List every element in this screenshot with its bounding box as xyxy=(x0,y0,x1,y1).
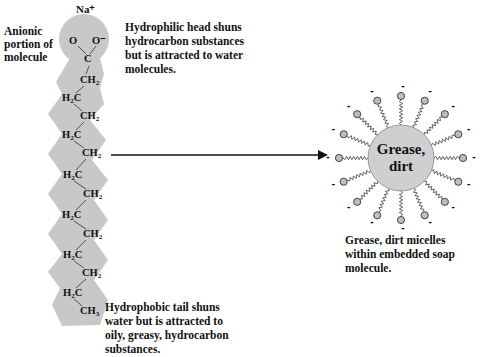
sodium-cation: Na⁺ xyxy=(76,4,95,15)
negative-charge: - xyxy=(452,100,455,111)
surfactant-head xyxy=(340,178,347,185)
surfactant-tail xyxy=(424,181,442,199)
chain-group-label: H2C xyxy=(62,92,81,107)
surfactant-tail xyxy=(347,136,370,147)
surfactant-tail xyxy=(424,117,442,135)
oxygen-left: O xyxy=(69,35,77,46)
surfactant-head xyxy=(335,154,342,161)
surfactant-tail xyxy=(347,171,370,182)
surfactant-tail xyxy=(432,135,455,146)
surfactant-head xyxy=(441,111,448,118)
negative-charge: - xyxy=(370,85,373,96)
surfactant-tail xyxy=(434,156,459,159)
negative-charge: - xyxy=(428,85,431,96)
surfactant-tail xyxy=(413,104,424,127)
chain-group-label: H2C xyxy=(62,129,81,144)
negative-charge: - xyxy=(401,222,404,233)
hydrophobic-tail-description: Hydrophobic tail shuns water but is attr… xyxy=(105,300,229,356)
negative-charge: - xyxy=(452,201,455,212)
chain-group-label: H2C xyxy=(63,169,82,184)
chain-group-label: CH2 xyxy=(80,110,99,125)
negative-charge: - xyxy=(428,216,431,227)
surfactant-tail xyxy=(399,100,402,125)
negative-charge: - xyxy=(347,201,350,212)
oxygen-right-charged: O⁻ xyxy=(92,35,106,46)
surfactant-head xyxy=(374,212,381,219)
surfactant-tail xyxy=(432,170,455,181)
chain-group-label: CH2 xyxy=(82,267,101,282)
negative-charge: - xyxy=(467,123,470,134)
surfactant-tail xyxy=(343,156,368,159)
surfactant-tail xyxy=(378,104,389,127)
chain-group-label: CH2 xyxy=(83,228,102,243)
chain-group-label: H2C xyxy=(63,249,82,264)
negative-charge: - xyxy=(467,178,470,189)
surfactant-head xyxy=(374,97,381,104)
surfactant-head xyxy=(455,178,462,185)
negative-charge: - xyxy=(401,80,404,91)
arrow xyxy=(111,150,328,160)
carbon-carboxyl: C xyxy=(84,53,92,64)
negative-charge: - xyxy=(472,151,475,162)
grease-core-label: Grease, dirt xyxy=(369,141,433,175)
surfactant-head xyxy=(397,92,404,99)
surfactant-tail xyxy=(414,189,425,212)
surfactant-head xyxy=(455,131,462,138)
surfactant-tail xyxy=(379,189,390,212)
anionic-portion-label: Anionic portion of molecule xyxy=(4,25,53,64)
surfactant-head xyxy=(421,212,428,219)
chain-group-label: CH2 xyxy=(82,147,101,162)
hydrophilic-head-description: Hydrophilic head shuns hydrocarbon subst… xyxy=(125,20,244,76)
surfactant-tail xyxy=(360,181,378,199)
negative-charge: - xyxy=(326,151,329,162)
surfactant-head xyxy=(459,154,466,161)
surfactant-tail xyxy=(399,191,402,216)
negative-charge: - xyxy=(332,123,335,134)
chain-group-label: CH2 xyxy=(80,74,99,89)
negative-charge: - xyxy=(347,100,350,111)
micelle-caption: Grease, dirt micelles within embedded so… xyxy=(345,233,455,275)
surfactant-head xyxy=(354,198,361,205)
chain-group-label: CH2 xyxy=(83,188,102,203)
surfactant-tail xyxy=(360,117,378,135)
surfactant-head xyxy=(354,111,361,118)
surfactant-head xyxy=(421,97,428,104)
chain-group-label: H2C xyxy=(62,209,81,224)
negative-charge: - xyxy=(332,178,335,189)
surfactant-head xyxy=(340,131,347,138)
chain-group-label: H2C xyxy=(63,287,82,302)
negative-charge: - xyxy=(370,216,373,227)
chain-group-label: CH3 xyxy=(80,305,99,320)
surfactant-head xyxy=(441,198,448,205)
